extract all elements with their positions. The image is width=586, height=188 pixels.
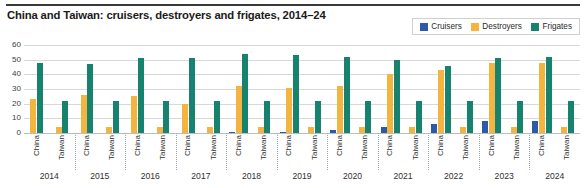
title-rule <box>6 4 580 6</box>
bar-frigates-2021-china <box>394 60 400 133</box>
bar-cruisers-2022-china <box>431 124 437 133</box>
bar-frigates-2018-china <box>242 54 248 133</box>
bar-frigates-2018-taiwan <box>264 101 270 133</box>
x-axis-year-label: 2019 <box>277 171 328 181</box>
bar-destroyers-2024-china <box>539 63 545 133</box>
bar-frigates-2023-taiwan <box>517 101 523 133</box>
year-separator-axis <box>277 133 278 170</box>
bar-frigates-2014-taiwan <box>62 101 68 133</box>
bar-frigates-2014-china <box>37 63 43 133</box>
bar-frigates-2019-taiwan <box>315 101 321 133</box>
bar-destroyers-2015-china <box>81 95 87 133</box>
year-separator-axis <box>529 133 530 170</box>
bar-frigates-2017-taiwan <box>214 101 220 133</box>
legend-label: Frigates <box>542 22 572 31</box>
bar-frigates-2016-taiwan <box>163 101 169 133</box>
bar-destroyers-2014-china <box>30 99 36 133</box>
x-axis-year-label: 2018 <box>226 171 277 181</box>
y-axis-tick-label: 0 <box>17 129 21 137</box>
bar-destroyers-2021-china <box>387 74 393 133</box>
bar-frigates-2016-china <box>138 58 144 133</box>
y-axis-tick-label: 40 <box>12 70 21 78</box>
x-axis-entity-label-china: China <box>336 135 344 156</box>
year-separator-axis <box>378 133 379 170</box>
bars-layer <box>24 45 580 133</box>
x-axis-entity-label-china: China <box>33 135 41 156</box>
x-axis-entity-label-china: China <box>235 135 243 156</box>
x-axis-year-label: 2020 <box>327 171 378 181</box>
bar-destroyers-2017-china <box>182 104 188 133</box>
year-separator-axis <box>479 133 480 170</box>
year-separator-axis <box>75 133 76 170</box>
legend-item-frigates[interactable]: Frigates <box>531 22 572 31</box>
y-axis-tick-label: 20 <box>12 100 21 108</box>
x-axis-entity-label-taiwan: Taiwan <box>58 135 66 160</box>
x-axis-entity-label-taiwan: Taiwan <box>311 135 319 160</box>
bar-frigates-2023-china <box>495 58 501 133</box>
year-separator-axis <box>428 133 429 170</box>
y-axis-tick-label: 10 <box>12 114 21 122</box>
y-axis-tick-label: 30 <box>12 85 21 93</box>
x-axis-entity-label-china: China <box>285 135 293 156</box>
x-axis-entity-label-taiwan: Taiwan <box>159 135 167 160</box>
bar-destroyers-2022-china <box>438 70 444 133</box>
year-separator-axis <box>176 133 177 170</box>
x-axis-year-label: 2017 <box>176 171 227 181</box>
bar-frigates-2019-china <box>293 55 299 133</box>
bar-destroyers-2019-china <box>286 88 292 133</box>
year-separator-axis <box>226 133 227 170</box>
bar-destroyers-2016-china <box>131 96 137 133</box>
bar-cruisers-2024-china <box>532 121 538 133</box>
x-axis-year-label: 2024 <box>529 171 580 181</box>
x-axis-entity-label-china: China <box>134 135 142 156</box>
bar-frigates-2024-taiwan <box>568 101 574 133</box>
bar-frigates-2024-china <box>546 57 552 133</box>
x-axis-entity-label-china: China <box>538 135 546 156</box>
square-swatch-icon <box>531 23 539 31</box>
x-axis-entity-label-taiwan: Taiwan <box>513 135 521 160</box>
bar-destroyers-2018-china <box>236 86 242 133</box>
x-axis-entity-label-taiwan: Taiwan <box>108 135 116 160</box>
bar-frigates-2021-taiwan <box>416 101 422 133</box>
x-axis-entity-label-china: China <box>386 135 394 156</box>
y-axis-tick-label: 60 <box>12 41 21 49</box>
x-axis-year-label: 2022 <box>428 171 479 181</box>
x-axis-year-label: 2015 <box>75 171 126 181</box>
plot-area <box>24 45 580 133</box>
year-separator-axis <box>125 133 126 170</box>
chart-figure: China and Taiwan: cruisers, destroyers a… <box>0 0 586 188</box>
x-axis-year-label: 2014 <box>24 171 75 181</box>
page-title: China and Taiwan: cruisers, destroyers a… <box>7 9 326 21</box>
x-axis-entity-label-taiwan: Taiwan <box>412 135 420 160</box>
bar-destroyers-2020-china <box>337 86 343 133</box>
bar-frigates-2022-taiwan <box>467 101 473 133</box>
x-axis: ChinaTaiwan2014ChinaTaiwan2015ChinaTaiwa… <box>24 133 580 188</box>
legend-item-destroyers[interactable]: Destroyers <box>471 22 522 31</box>
x-axis-entity-label-taiwan: Taiwan <box>260 135 268 160</box>
legend-label: Destroyers <box>482 22 522 31</box>
x-axis-entity-label-china: China <box>437 135 445 156</box>
legend-label: Cruisers <box>431 22 461 31</box>
bar-frigates-2020-china <box>344 57 350 133</box>
chart-legend: CruisersDestroyersFrigates <box>412 18 580 35</box>
x-axis-entity-label-china: China <box>184 135 192 156</box>
bar-frigates-2022-china <box>445 66 451 133</box>
x-axis-year-label: 2021 <box>378 171 429 181</box>
x-axis-entity-label-taiwan: Taiwan <box>210 135 218 160</box>
bar-cruisers-2023-china <box>482 121 488 133</box>
x-axis-entity-label-taiwan: Taiwan <box>361 135 369 160</box>
square-swatch-icon <box>420 23 428 31</box>
bar-destroyers-2023-china <box>489 63 495 133</box>
square-swatch-icon <box>471 23 479 31</box>
x-axis-year-label: 2023 <box>479 171 530 181</box>
bar-frigates-2015-china <box>87 64 93 133</box>
bar-frigates-2017-china <box>189 58 195 133</box>
x-axis-year-label: 2016 <box>125 171 176 181</box>
y-axis-tick-label: 50 <box>12 56 21 64</box>
bar-frigates-2020-taiwan <box>365 101 371 133</box>
x-axis-entity-label-china: China <box>488 135 496 156</box>
legend-item-cruisers[interactable]: Cruisers <box>420 22 462 31</box>
y-axis: 0102030405060 <box>0 45 21 133</box>
x-axis-entity-label-china: China <box>83 135 91 156</box>
x-axis-entity-label-taiwan: Taiwan <box>462 135 470 160</box>
